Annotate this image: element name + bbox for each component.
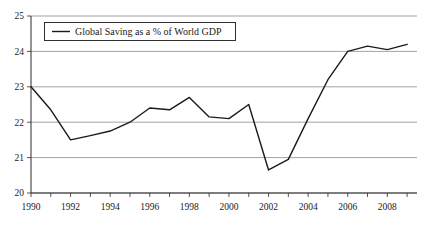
legend: Global Saving as a % of World GDP — [45, 23, 236, 41]
legend-label: Global Saving as a % of World GDP — [75, 26, 222, 37]
x-tick-label-1990: 1990 — [22, 202, 41, 212]
x-tick-label-1996: 1996 — [140, 202, 159, 212]
y-tick-labels: 202122232425 — [15, 11, 25, 198]
y-tick-label-21: 21 — [15, 153, 25, 163]
x-tick-label-2004: 2004 — [299, 202, 318, 212]
x-tick-label-1994: 1994 — [101, 202, 120, 212]
data-series-group — [31, 44, 407, 170]
y-tick-label-23: 23 — [15, 82, 25, 92]
x-tick-label-2008: 2008 — [378, 202, 397, 212]
line-chart: 202122232425 199019921994199619982000200… — [0, 0, 430, 235]
chart-container: 202122232425 199019921994199619982000200… — [0, 0, 430, 235]
y-tick-label-25: 25 — [15, 11, 25, 21]
y-tick-label-24: 24 — [15, 47, 25, 57]
x-tick-marks — [31, 193, 407, 197]
series-line-global-saving — [31, 44, 407, 170]
y-tick-label-20: 20 — [15, 188, 25, 198]
x-tick-label-2000: 2000 — [219, 202, 238, 212]
gridlines — [31, 16, 417, 193]
y-tick-marks — [27, 16, 31, 193]
x-tick-label-1992: 1992 — [61, 202, 80, 212]
x-tick-label-2002: 2002 — [259, 202, 278, 212]
x-tick-labels: 1990199219941996199820002002200420062008 — [22, 202, 398, 212]
y-tick-label-22: 22 — [15, 118, 25, 128]
x-tick-label-1998: 1998 — [180, 202, 199, 212]
x-tick-label-2006: 2006 — [338, 202, 357, 212]
